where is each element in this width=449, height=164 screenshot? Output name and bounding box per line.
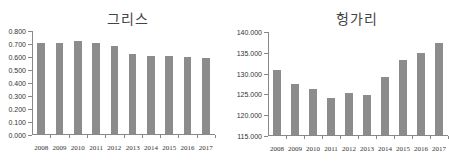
bar-2013 xyxy=(363,95,371,135)
x-tick-label: 2013 xyxy=(360,145,374,153)
x-tick-label: 2008 xyxy=(34,144,48,152)
y-tick xyxy=(28,70,32,71)
bar-2012 xyxy=(345,93,353,135)
y-tick xyxy=(264,115,268,116)
x-tick xyxy=(197,135,198,138)
x-tick xyxy=(340,136,341,139)
x-tick-label: 2017 xyxy=(199,144,213,152)
y-tick xyxy=(28,44,32,45)
x-tick xyxy=(50,135,51,138)
y-tick-label: 130.000 xyxy=(237,70,262,77)
y-tick-label: 140.000 xyxy=(237,29,262,36)
x-tick-label: 2012 xyxy=(342,145,356,153)
y-tick xyxy=(28,57,32,58)
x-tick-label: 2014 xyxy=(378,145,392,153)
x-tick xyxy=(304,136,305,139)
y-tick-label: 120.000 xyxy=(237,112,262,119)
y-tick-label: 115.000 xyxy=(237,133,262,140)
y-tick xyxy=(28,96,32,97)
bar-2016 xyxy=(417,53,425,135)
y-axis xyxy=(32,31,33,135)
y-tick xyxy=(264,32,268,33)
y-tick-label: 0.800 xyxy=(8,28,26,35)
y-axis xyxy=(268,32,269,136)
bar-2016 xyxy=(184,57,192,134)
y-tick xyxy=(28,31,32,32)
y-tick xyxy=(264,136,268,137)
bar-2013 xyxy=(129,54,137,134)
x-tick xyxy=(412,136,413,139)
x-tick-label: 2015 xyxy=(396,145,410,153)
bar-2015 xyxy=(165,56,173,134)
x-tick-label: 2016 xyxy=(181,144,195,152)
x-tick-label: 2009 xyxy=(52,144,66,152)
bar-2017 xyxy=(435,43,443,135)
y-tick-label: 0.400 xyxy=(8,80,26,87)
y-tick xyxy=(28,109,32,110)
plot-area: 115.000120.000125.000130.000135.000140.0… xyxy=(268,32,448,136)
y-tick xyxy=(264,94,268,95)
bar-2010 xyxy=(309,89,317,135)
x-tick-label: 2009 xyxy=(288,145,302,153)
x-tick xyxy=(376,136,377,139)
bar-2010 xyxy=(74,41,82,134)
x-tick-label: 2013 xyxy=(126,144,140,152)
x-tick xyxy=(286,136,287,139)
y-tick-label: 0.600 xyxy=(8,54,26,61)
x-tick xyxy=(430,136,431,139)
bar-2011 xyxy=(327,98,335,135)
greece-chart: 그리스 0.0000.1000.2000.3000.4000.5000.6000… xyxy=(0,0,225,164)
bar-2009 xyxy=(291,84,299,135)
x-tick xyxy=(160,135,161,138)
x-tick xyxy=(178,135,179,138)
x-tick-label: 2012 xyxy=(107,144,121,152)
x-tick-label: 2008 xyxy=(270,145,284,153)
y-tick xyxy=(264,74,268,75)
bar-2008 xyxy=(273,70,281,135)
x-tick xyxy=(87,135,88,138)
bar-2014 xyxy=(381,77,389,135)
bar-2015 xyxy=(399,60,407,135)
x-tick-label: 2017 xyxy=(432,145,446,153)
y-tick xyxy=(28,122,32,123)
bar-2008 xyxy=(37,43,45,134)
y-tick-label: 135.000 xyxy=(237,49,262,56)
y-tick-label: 0.300 xyxy=(8,93,26,100)
chart-title: 헝가리 xyxy=(265,8,449,28)
bar-2014 xyxy=(147,56,155,134)
x-tick xyxy=(322,136,323,139)
x-tick-label: 2010 xyxy=(71,144,85,152)
bar-2012 xyxy=(111,46,119,134)
y-tick xyxy=(28,135,32,136)
x-tick xyxy=(142,135,143,138)
x-tick-label: 2011 xyxy=(89,144,103,152)
y-tick-label: 0.100 xyxy=(8,119,26,126)
y-tick-label: 0.500 xyxy=(8,67,26,74)
y-tick-label: 0.000 xyxy=(8,132,26,139)
y-tick-label: 125.000 xyxy=(237,91,262,98)
x-tick-label: 2014 xyxy=(144,144,158,152)
x-tick xyxy=(215,135,216,138)
y-tick-label: 0.700 xyxy=(8,41,26,48)
x-tick-label: 2015 xyxy=(162,144,176,152)
y-tick xyxy=(264,53,268,54)
x-tick xyxy=(69,135,70,138)
hungary-chart: 헝가리 115.000120.000125.000130.000135.0001… xyxy=(225,0,449,164)
x-tick xyxy=(105,135,106,138)
plot-area: 0.0000.1000.2000.3000.4000.5000.6000.700… xyxy=(32,31,215,135)
x-tick-label: 2016 xyxy=(414,145,428,153)
bar-2017 xyxy=(202,58,210,134)
chart-title: 그리스 xyxy=(30,8,225,28)
bar-2011 xyxy=(92,43,100,134)
bar-2009 xyxy=(56,43,64,134)
y-tick xyxy=(28,83,32,84)
x-tick xyxy=(124,135,125,138)
x-tick xyxy=(394,136,395,139)
x-tick xyxy=(358,136,359,139)
x-tick-label: 2011 xyxy=(324,145,338,153)
x-tick-label: 2010 xyxy=(306,145,320,153)
y-tick-label: 0.200 xyxy=(8,106,26,113)
